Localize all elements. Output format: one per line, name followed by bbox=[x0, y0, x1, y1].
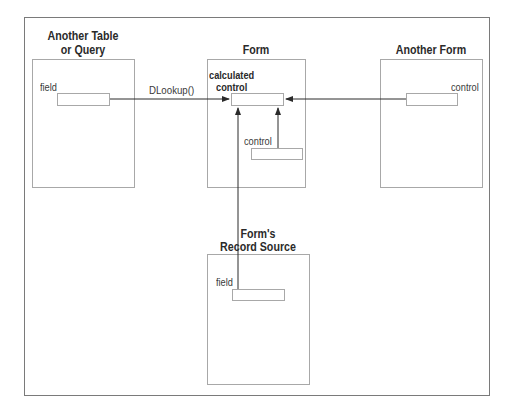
connector-arrows bbox=[0, 0, 516, 419]
